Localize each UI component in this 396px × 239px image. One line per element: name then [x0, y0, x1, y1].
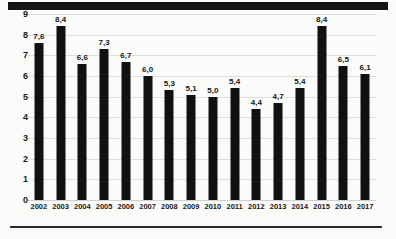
- x-axis-tick-label: 2003: [52, 202, 69, 211]
- x-axis-tick-label: 2010: [205, 202, 222, 211]
- bar[interactable]: [100, 49, 109, 200]
- bar-value-label: 5,1: [186, 84, 197, 93]
- x-axis-tick-label: 2012: [248, 202, 265, 211]
- x-axis: 2002200320042005200620072008200920102011…: [28, 202, 376, 218]
- x-axis-tick-label: 2014: [292, 202, 309, 211]
- bar-item[interactable]: 5,4: [224, 14, 246, 200]
- y-axis-tick-label: 0: [10, 195, 28, 205]
- bar-value-label: 4,7: [273, 92, 284, 101]
- x-axis-tick-label: 2013: [270, 202, 287, 211]
- bar-item[interactable]: 6,0: [137, 14, 159, 200]
- x-axis-tick-label: 2016: [335, 202, 352, 211]
- bar[interactable]: [361, 74, 370, 200]
- top-divider-rule: [8, 2, 388, 10]
- bar-value-label: 7,6: [33, 32, 44, 41]
- bar-item[interactable]: 7,6: [28, 14, 50, 200]
- bar-item[interactable]: 4,4: [246, 14, 268, 200]
- bar-value-label: 6,5: [338, 55, 349, 64]
- bars-group: 7,68,46,67,36,76,05,35,15,05,44,44,75,48…: [28, 14, 376, 200]
- bar[interactable]: [208, 97, 217, 200]
- bar-item[interactable]: 5,1: [180, 14, 202, 200]
- x-axis-tick-label: 2011: [226, 202, 242, 211]
- bar[interactable]: [252, 109, 261, 200]
- y-axis-tick-label: 1: [10, 174, 28, 184]
- bar[interactable]: [165, 90, 174, 200]
- bar-item[interactable]: 6,1: [354, 14, 376, 200]
- bar[interactable]: [143, 76, 152, 200]
- x-axis-tick-label: 2004: [74, 202, 91, 211]
- bar[interactable]: [317, 26, 326, 200]
- x-axis-tick-label: 2007: [139, 202, 156, 211]
- bar[interactable]: [295, 88, 304, 200]
- x-axis-tick-label: 2005: [96, 202, 113, 211]
- bar-item[interactable]: 8,4: [50, 14, 72, 200]
- bar[interactable]: [339, 66, 348, 200]
- y-axis-tick-label: 6: [10, 71, 28, 81]
- gridline: [28, 200, 376, 201]
- chart-figure: 0123456789 7,68,46,67,36,76,05,35,15,05,…: [0, 0, 396, 239]
- y-axis-tick-label: 9: [10, 9, 28, 19]
- bar-item[interactable]: 5,0: [202, 14, 224, 200]
- y-axis-tick-label: 8: [10, 30, 28, 40]
- bar-value-label: 8,4: [55, 15, 66, 24]
- bar-value-label: 5,0: [207, 86, 218, 95]
- bar-item[interactable]: 7,3: [93, 14, 115, 200]
- bar-value-label: 5,4: [229, 77, 240, 86]
- bar[interactable]: [274, 103, 283, 200]
- bottom-divider-rule: [10, 226, 382, 228]
- y-axis-tick-label: 4: [10, 112, 28, 122]
- y-axis-tick-label: 2: [10, 154, 28, 164]
- bar-value-label: 8,4: [316, 15, 327, 24]
- bar-value-label: 6,0: [142, 65, 153, 74]
- y-axis: 0123456789: [10, 14, 28, 200]
- bar-item[interactable]: 5,4: [289, 14, 311, 200]
- bar[interactable]: [187, 95, 196, 200]
- x-axis-tick-label: 2006: [118, 202, 135, 211]
- bar-value-label: 6,7: [120, 51, 131, 60]
- bar-item[interactable]: 6,7: [115, 14, 137, 200]
- bar-item[interactable]: 5,3: [159, 14, 181, 200]
- bar[interactable]: [56, 26, 65, 200]
- y-axis-tick-label: 3: [10, 133, 28, 143]
- bar-item[interactable]: 4,7: [267, 14, 289, 200]
- bar[interactable]: [121, 62, 130, 200]
- bar-item[interactable]: 6,6: [72, 14, 94, 200]
- bar[interactable]: [34, 43, 43, 200]
- bar-item[interactable]: 6,5: [333, 14, 355, 200]
- x-axis-tick-label: 2015: [313, 202, 330, 211]
- bar-value-label: 4,4: [251, 98, 262, 107]
- bar-value-label: 5,3: [164, 79, 175, 88]
- bar-value-label: 6,6: [77, 53, 88, 62]
- y-axis-tick-label: 7: [10, 50, 28, 60]
- x-axis-tick-label: 2017: [357, 202, 374, 211]
- bar[interactable]: [78, 64, 87, 200]
- y-axis-tick-label: 5: [10, 92, 28, 102]
- x-axis-tick-label: 2009: [183, 202, 200, 211]
- x-axis-tick-label: 2002: [31, 202, 48, 211]
- bar-value-label: 7,3: [99, 38, 110, 47]
- bar-value-label: 6,1: [360, 63, 371, 72]
- bar-item[interactable]: 8,4: [311, 14, 333, 200]
- x-axis-tick-label: 2008: [161, 202, 178, 211]
- bar[interactable]: [230, 88, 239, 200]
- plot-area: 0123456789 7,68,46,67,36,76,05,35,15,05,…: [0, 14, 396, 220]
- bar-value-label: 5,4: [294, 77, 305, 86]
